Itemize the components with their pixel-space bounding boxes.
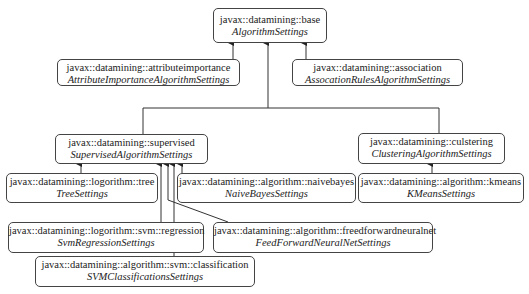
node-svm-classification: javax::datamining::algorithm::svm::class…	[35, 256, 255, 287]
package-label: javax::datamining::logorithm::svm::regre…	[9, 225, 203, 237]
class-label: AssocationRulesAlgorithmSettings	[293, 74, 462, 86]
node-clustering: javax::datamining::culstering Clustering…	[358, 133, 505, 164]
class-label: TreeSettings	[7, 188, 157, 200]
node-supervised: javax::datamining::supervised Supervised…	[55, 134, 208, 164]
class-label: SVMClassificationsSettings	[36, 271, 254, 283]
package-label: javax::datamining::supervised	[56, 137, 207, 149]
class-label: SvmRegressionSettings	[9, 237, 203, 249]
node-naivebayes: javax::datamining::algorithm::naivebayes…	[177, 173, 356, 203]
node-association: javax::datamining::association Assocatio…	[292, 59, 463, 86]
node-attributeimportance: javax::datamining::attributeimportance A…	[57, 59, 240, 86]
class-label: AlgorithmSettings	[214, 26, 326, 38]
package-label: javax::datamining::algorithm::svm::class…	[36, 259, 254, 271]
package-label: javax::datamining::attributeimportance	[58, 62, 239, 74]
package-label: javax::datamining::association	[293, 62, 462, 74]
package-label: javax::datamining::algorithm::freedforwa…	[214, 225, 432, 237]
node-tree: javax::datamining::logorithm::tree TreeS…	[6, 173, 158, 203]
package-label: javax::datamining::algorithm::naivebayes	[178, 176, 355, 188]
node-feedforward: javax::datamining::algorithm::freedforwa…	[213, 222, 433, 253]
class-label: SupervisedAlgorithmSettings	[56, 149, 207, 161]
package-label: javax::datamining::algorithm::kmeans	[359, 176, 523, 188]
class-label: AttributeImportanceAlgorithmSettings	[58, 74, 239, 86]
edge-bus	[143, 108, 439, 134]
class-hierarchy-diagram: javax::datamining::base AlgorithmSetting…	[0, 0, 529, 294]
package-label: javax::datamining::culstering	[359, 136, 504, 148]
class-label: ClusteringAlgorithmSettings	[359, 148, 504, 160]
package-label: javax::datamining::logorithm::tree	[7, 176, 157, 188]
package-label: javax::datamining::base	[214, 14, 326, 26]
node-svm-regression: javax::datamining::logorithm::svm::regre…	[8, 222, 204, 253]
class-label: NaiveBayesSettings	[178, 188, 355, 200]
class-label: FeedForwardNeuralNetSettings	[214, 237, 432, 249]
node-base: javax::datamining::base AlgorithmSetting…	[213, 8, 327, 43]
node-kmeans: javax::datamining::algorithm::kmeans KMe…	[358, 173, 524, 203]
class-label: KMeansSettings	[359, 188, 523, 200]
